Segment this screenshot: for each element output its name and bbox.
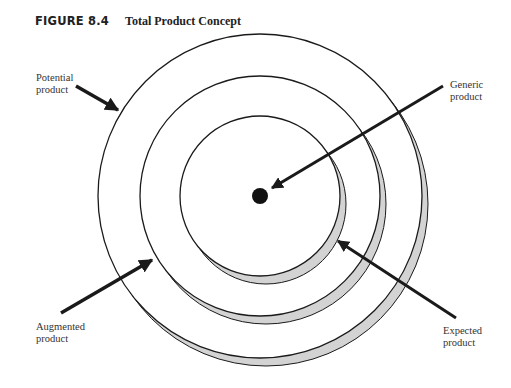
potential-product-label: Potential product — [36, 72, 73, 96]
potential-arrow — [76, 86, 118, 110]
augmented-product-label: Augmented product — [36, 321, 85, 345]
generic-product-core — [252, 188, 268, 204]
generic-product-label: Generic product — [450, 79, 483, 103]
expected-product-label: Expected product — [443, 325, 482, 349]
